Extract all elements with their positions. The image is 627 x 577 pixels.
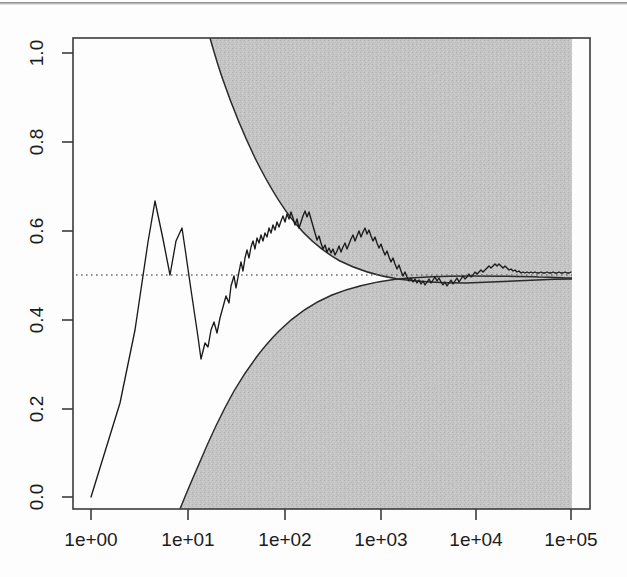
x-tick-label-1e04: 1e+04 [449,529,503,550]
lln-convergence-chart: 1e+00 1e+01 1e+02 1e+03 1e+04 1e+05 1.0 … [0,0,627,577]
x-axis-ticks [91,509,571,520]
y-tick-label-0-4: 0.4 [26,306,47,333]
figure-root: 1e+00 1e+01 1e+02 1e+03 1e+04 1e+05 1.0 … [0,0,627,577]
lower-gray-region [180,276,572,509]
x-tick-label-1e03: 1e+03 [354,529,407,550]
y-tick-label-0-8: 0.8 [26,129,47,155]
x-tick-label-1e02: 1e+02 [258,529,311,550]
y-tick-label-1-0: 1.0 [26,40,47,66]
y-axis-ticks [62,53,73,497]
x-tick-label-1e00: 1e+00 [64,529,117,550]
x-tick-label-1e01: 1e+01 [161,529,214,550]
y-tick-label-0-2: 0.2 [26,396,47,422]
x-axis-tick-labels: 1e+00 1e+01 1e+02 1e+03 1e+04 1e+05 [64,529,597,550]
y-tick-label-0-6: 0.6 [26,218,47,244]
x-tick-label-1e05: 1e+05 [544,529,597,550]
upper-gray-region [210,38,572,283]
y-axis-tick-labels: 1.0 0.8 0.6 0.4 0.2 0.0 [26,40,47,510]
y-tick-label-0-0: 0.0 [26,484,47,510]
